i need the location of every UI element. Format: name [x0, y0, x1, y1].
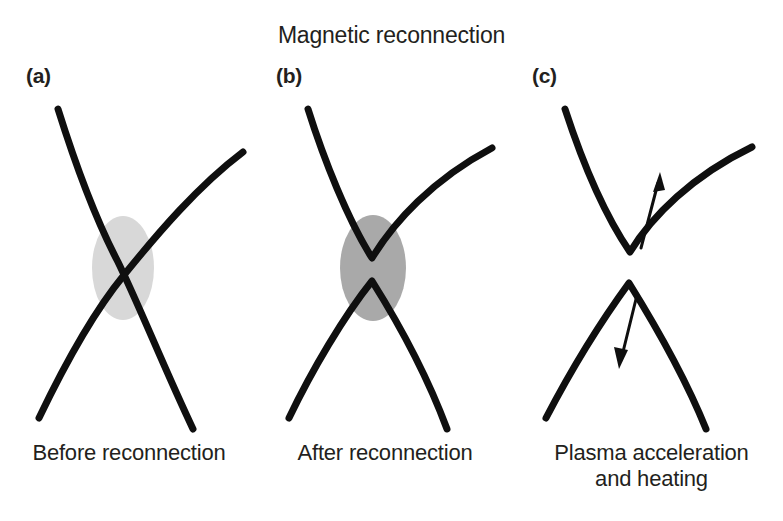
field-line-lower-lambda-c — [546, 283, 706, 429]
panel-a-graphics — [39, 109, 243, 429]
magnetic-reconnection-figure: Magnetic reconnection (a) (b) (c) — [0, 0, 783, 521]
panel-caption-b: After reconnection — [256, 440, 514, 466]
panel-b-graphics — [289, 109, 492, 429]
panel-caption-c: Plasma acceleration and heating — [520, 440, 783, 492]
panel-c-graphics — [546, 109, 752, 429]
field-line-upper-v-b — [308, 109, 492, 258]
outflow-arrow-down — [614, 295, 637, 369]
panel-caption-a: Before reconnection — [0, 440, 258, 466]
